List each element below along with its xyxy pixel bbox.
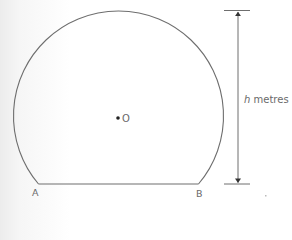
label-o: O <box>122 113 130 124</box>
centre-point-o <box>116 116 120 120</box>
label-b: B <box>196 188 203 199</box>
tunnel-diagram: O A B h metres <box>0 0 292 205</box>
speck-mark <box>265 195 267 197</box>
height-variable: h <box>244 94 250 105</box>
height-unit: metres <box>254 94 289 105</box>
label-a: A <box>32 187 39 198</box>
tunnel-outline-arc <box>14 11 224 184</box>
height-label: h metres <box>244 94 289 105</box>
